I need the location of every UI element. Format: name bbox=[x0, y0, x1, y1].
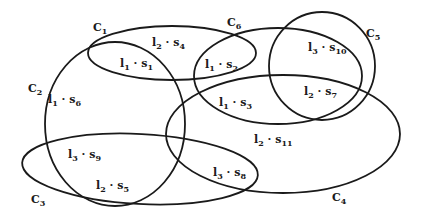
element-s-index: 3 bbox=[246, 101, 252, 111]
element-separator: · bbox=[314, 85, 326, 98]
set-letter: C bbox=[31, 193, 40, 206]
set-letter: C bbox=[366, 27, 375, 40]
set-letter: C bbox=[93, 21, 102, 34]
set-index: 6 bbox=[236, 21, 242, 31]
element-s-index: 4 bbox=[179, 41, 185, 51]
element-label-s7: l2 · s7 bbox=[304, 86, 337, 99]
element-separator: · bbox=[162, 36, 174, 49]
element-s-index: 6 bbox=[75, 98, 81, 108]
element-label-s6: l1 · s6 bbox=[48, 94, 81, 107]
set-index: 3 bbox=[40, 198, 46, 208]
element-s-index: 7 bbox=[331, 90, 337, 100]
set-label-c4: C4 bbox=[332, 192, 346, 205]
element-separator: · bbox=[223, 166, 235, 179]
set-ellipses bbox=[0, 0, 422, 218]
set-letter: C bbox=[227, 16, 236, 29]
element-label-s5: l2 · s5 bbox=[96, 180, 129, 193]
element-separator: · bbox=[229, 96, 241, 109]
element-label-s10: l3 · s10 bbox=[308, 42, 347, 55]
element-label-s9: l3 · s9 bbox=[68, 149, 101, 162]
element-separator: · bbox=[106, 179, 118, 192]
element-label-s8: l3 · s8 bbox=[213, 167, 246, 180]
element-separator: · bbox=[58, 93, 70, 106]
element-separator: · bbox=[264, 133, 276, 146]
element-s-index: 2 bbox=[232, 63, 238, 73]
set-label-c2: C2 bbox=[28, 83, 42, 96]
element-separator: · bbox=[130, 57, 142, 70]
set-label-c3: C3 bbox=[31, 194, 45, 207]
set-label-c1: C1 bbox=[93, 22, 107, 35]
element-label-s2: l1 · s2 bbox=[205, 59, 238, 72]
set-letter: C bbox=[332, 191, 341, 204]
element-s-index: 1 bbox=[147, 62, 153, 72]
element-s-index: 10 bbox=[335, 46, 346, 56]
element-s-index: 5 bbox=[123, 184, 129, 194]
set-label-c6: C6 bbox=[227, 17, 241, 30]
set-letter: C bbox=[28, 82, 37, 95]
element-label-s1: l1 · s1 bbox=[120, 58, 153, 71]
set-index: 2 bbox=[37, 87, 43, 97]
venn-diagram: C1C2C3C4C5C6l1 · s1l1 · s2l1 · s3l2 · s4… bbox=[0, 0, 422, 218]
set-index: 4 bbox=[341, 196, 347, 206]
element-label-s4: l2 · s4 bbox=[152, 37, 185, 50]
set-index: 1 bbox=[102, 26, 108, 36]
element-separator: · bbox=[78, 148, 90, 161]
element-separator: · bbox=[318, 41, 330, 54]
element-label-s3: l1 · s3 bbox=[219, 97, 252, 110]
element-s-index: 9 bbox=[95, 153, 101, 163]
element-label-s11: l2 · s11 bbox=[254, 134, 293, 147]
set-label-c5: C5 bbox=[366, 28, 380, 41]
set-index: 5 bbox=[375, 32, 381, 42]
element-s-index: 8 bbox=[240, 171, 246, 181]
element-separator: · bbox=[215, 58, 227, 71]
element-s-index: 11 bbox=[281, 138, 292, 148]
